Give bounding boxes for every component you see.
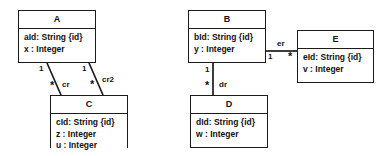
multiplicity-cr-source: 1 (39, 64, 43, 73)
class-attributes-B: bId: String {id} y : Integer (189, 29, 265, 58)
uml-class-diagram-canvas: A aId: String {id} x : Integer B bId: St… (0, 0, 387, 156)
multiplicity-er-target: * (288, 54, 292, 59)
uml-class-D[interactable]: D dId: String {id} w : Integer (190, 95, 268, 148)
attribute: y : Integer (194, 44, 261, 56)
uml-class-E[interactable]: E eId: String {id} v : Integer (297, 30, 374, 83)
attribute: x : Integer (24, 44, 91, 56)
attribute: u : Integer (56, 140, 123, 152)
attribute: bId: String {id} (194, 32, 261, 44)
attribute: v : Integer (303, 64, 369, 76)
attribute: eId: String {id} (303, 52, 369, 64)
class-attributes-A: aId: String {id} x : Integer (19, 29, 95, 58)
multiplicity-er-source: 1 (268, 52, 272, 61)
association-label-cr2: cr2 (102, 75, 114, 84)
attribute: aId: String {id} (24, 32, 91, 44)
class-attributes-C: cId: String {id} z : Integer u : Integer (51, 114, 127, 155)
class-name-E: E (298, 31, 373, 49)
uml-class-B[interactable]: B bId: String {id} y : Integer (188, 10, 266, 63)
attribute: cId: String {id} (56, 117, 123, 129)
class-attributes-D: dId: String {id} w : Integer (191, 114, 267, 143)
uml-class-A[interactable]: A aId: String {id} x : Integer (18, 10, 96, 63)
attribute: w : Integer (196, 129, 263, 141)
uml-class-C[interactable]: C cId: String {id} z : Integer u : Integ… (50, 95, 128, 148)
class-name-A: A (19, 11, 95, 29)
class-name-C: C (51, 96, 127, 114)
multiplicity-dr-target: * (205, 83, 209, 88)
class-name-D: D (191, 96, 267, 114)
multiplicity-cr2-target: * (90, 82, 94, 87)
attribute: dId: String {id} (196, 117, 263, 129)
class-attributes-E: eId: String {id} v : Integer (298, 49, 373, 78)
multiplicity-dr-source: 1 (205, 65, 209, 74)
association-label-cr: cr (62, 80, 70, 89)
association-label-dr: dr (219, 80, 227, 89)
association-label-er: er (277, 39, 285, 48)
multiplicity-cr-target: * (50, 83, 54, 88)
attribute: z : Integer (56, 129, 123, 141)
class-name-B: B (189, 11, 265, 29)
multiplicity-cr2-source: 1 (82, 64, 86, 73)
